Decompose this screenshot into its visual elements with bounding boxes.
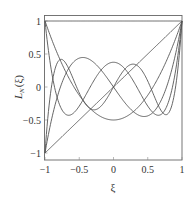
y-ticks: 10.50−0.5−1 [23,16,48,159]
x-axis-label: ξ [111,181,116,194]
x-tick-label: −0.5 [70,164,88,175]
y-tick-label: −0.5 [23,115,41,126]
curve-l2 [45,21,182,120]
y-tick-label: 1 [36,16,41,27]
x-tick-label: 0 [111,164,116,175]
x-tick-label: −1 [40,164,51,175]
x-tick-label: 0.5 [142,164,155,175]
curve-l4 [45,21,182,115]
y-axis-label: LN(ξ) [12,75,26,100]
y-tick-label: 0 [36,82,41,93]
x-tick-label: 1 [180,164,185,175]
y-tick-label: 0.5 [29,49,42,60]
legendre-chart: −1−0.500.51 10.50−0.5−1 ξ LN(ξ) [0,0,196,199]
y-tick-label: −1 [30,148,41,159]
curves [45,21,182,153]
